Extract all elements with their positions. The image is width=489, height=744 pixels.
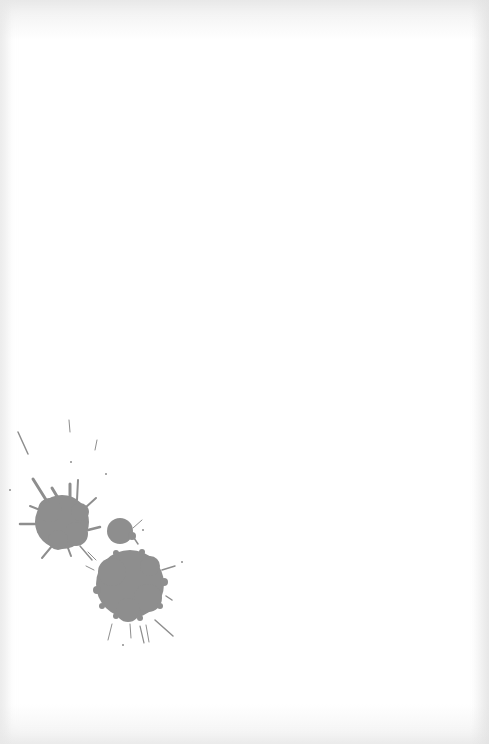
ink-splatter-left	[9, 420, 107, 560]
ink-splatter-group	[0, 0, 489, 744]
ink-splatter-small	[107, 518, 144, 544]
paper-background	[0, 0, 489, 744]
ink-splatter-large	[86, 549, 183, 646]
